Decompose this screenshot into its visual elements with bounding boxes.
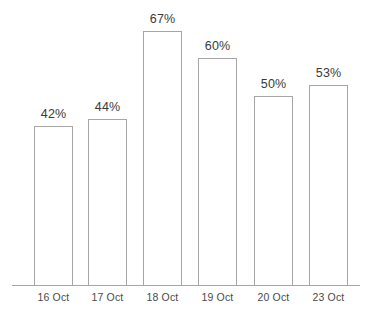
bar-chart: 42%44%67%60%50%53% 16 Oct17 Oct18 Oct19 … [0,0,371,328]
category-label: 19 Oct [198,292,237,303]
bar-value-label: 50% [261,78,286,91]
bar-group[interactable]: 60% [198,40,237,287]
category-label: 16 Oct [34,292,73,303]
bar-rect[interactable] [143,31,182,286]
bar-group[interactable]: 44% [88,101,127,287]
x-axis-line [12,285,360,286]
bar-rect[interactable] [198,58,237,286]
bar-value-label: 42% [41,108,66,121]
bar-group[interactable]: 67% [143,13,182,287]
category-axis: 16 Oct17 Oct18 Oct19 Oct20 Oct23 Oct [0,292,371,312]
category-label: 18 Oct [143,292,182,303]
bar-value-label: 44% [95,101,120,114]
bar-group[interactable]: 53% [309,67,348,287]
bar-value-label: 60% [205,40,230,53]
bar-rect[interactable] [88,119,127,286]
bar-rect[interactable] [309,85,348,286]
bar-rect[interactable] [254,96,293,286]
bar-value-label: 53% [316,67,341,80]
bar-rect[interactable] [34,126,73,286]
bar-group[interactable]: 42% [34,108,73,287]
category-label: 17 Oct [88,292,127,303]
category-label: 23 Oct [309,292,348,303]
plot-area: 42%44%67%60%50%53% [0,0,371,286]
bar-value-label: 67% [150,13,175,26]
bar-group[interactable]: 50% [254,78,293,287]
category-label: 20 Oct [254,292,293,303]
